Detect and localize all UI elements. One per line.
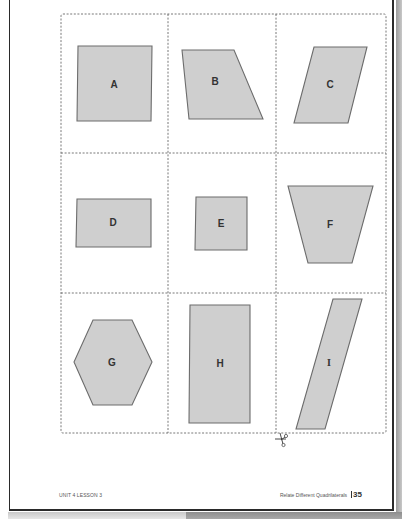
card-b[interactable]: B	[182, 50, 263, 119]
card-c[interactable]: C	[294, 47, 367, 123]
shape-label-b: B	[211, 76, 218, 87]
scissors-icon	[275, 433, 288, 447]
page-number: 35	[351, 490, 362, 499]
shape-label-g: G	[108, 357, 116, 368]
footer-right: Relate Different Quadrilaterals 35	[280, 490, 362, 499]
card-d[interactable]: D	[76, 199, 151, 247]
shape-label-d: D	[109, 217, 116, 228]
shape-label-i: I	[327, 357, 331, 368]
card-g[interactable]: G	[74, 320, 152, 405]
shape-trapezoid-b	[182, 50, 263, 119]
cutout-sheet: A B C D E F G H I	[0, 0, 402, 519]
card-h[interactable]: H	[189, 305, 250, 423]
page-number-bar	[351, 491, 352, 498]
shape-label-a: A	[110, 79, 117, 90]
page-number-value: 35	[353, 490, 362, 499]
shape-label-c: C	[326, 79, 333, 90]
shape-label-f: F	[327, 219, 333, 230]
card-f[interactable]: F	[288, 186, 373, 263]
footer-unit-lesson: UNIT 4 LESSON 3	[59, 492, 102, 498]
card-i[interactable]: I	[296, 299, 362, 429]
shape-label-e: E	[218, 218, 225, 229]
card-e[interactable]: E	[195, 197, 247, 250]
footer-lesson-title: Relate Different Quadrilaterals	[280, 492, 347, 498]
shape-label-h: H	[216, 358, 223, 369]
card-a[interactable]: A	[77, 46, 152, 121]
